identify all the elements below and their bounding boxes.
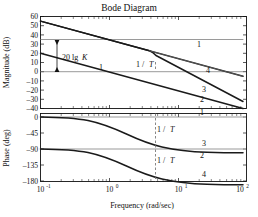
phase-plot-frame [41, 114, 247, 182]
twenty-lg-k-arrow [55, 40, 60, 72]
x-tick-exp-2: 0 [116, 183, 119, 189]
magnitude-label-1-right: 1 [197, 40, 201, 49]
x-tick-label-1e0: 10 0 [106, 183, 119, 194]
x-tick-exp-3: 1 [185, 183, 188, 189]
phase-label-3: 3 [202, 139, 206, 148]
chart-title: Bode Diagram [101, 3, 157, 13]
magnitude-label-2: 2 [200, 95, 204, 104]
magnitude-label-1-left: 1 [99, 63, 103, 72]
phase-tick-label-0: 0 [34, 113, 38, 122]
annotation-20lgk-symbol: K [81, 53, 88, 62]
phase-curve-4 [41, 149, 244, 185]
bode-diagram-figure: Bode Diagram [0, 0, 258, 217]
mag-tick-label-40: 40 [30, 31, 38, 40]
phase-curve-3 [41, 117, 244, 153]
mag-tick-label-60: 60 [30, 12, 38, 21]
phase-annotation-1overT-lower-prefix: 1 / [157, 156, 166, 165]
mag-tick-label-neg10: –10 [26, 77, 39, 86]
phase-tick-label-neg90: –90 [26, 145, 39, 154]
x-tick-base-3: 10 [175, 185, 183, 194]
phase-label-2: 2 [200, 151, 204, 160]
magnitude-label-3: 3 [202, 85, 206, 94]
x-tick-exp-1: -1 [46, 183, 51, 189]
phase-annotation-1overT-lower-symbol: T [170, 156, 175, 165]
mag-tick-label-10: 10 [30, 58, 38, 67]
phase-tick-label-neg45: –45 [26, 129, 39, 138]
x-tick-base-4: 10 [236, 185, 244, 194]
phase-annotation-1overT-upper-prefix: 1 / [157, 125, 166, 134]
x-tick-label-1e-1: 10 -1 [37, 183, 51, 194]
phase-tick-label-neg135: –135 [22, 161, 38, 170]
mag-tick-label-neg20: –20 [26, 86, 39, 95]
annotation-20lgk-text: 20 lg [62, 53, 78, 62]
bode-chart-svg: Bode Diagram [0, 0, 258, 217]
mag-tick-label-neg30: –30 [26, 95, 39, 104]
mag-tick-label-0: 0 [34, 67, 38, 76]
mag-tick-label-20: 20 [30, 49, 38, 58]
phase-annotation-1overT-upper-symbol: T [170, 125, 175, 134]
magnitude-annotation-1overT-symbol: T [149, 60, 154, 69]
x-tick-label-1e1: 10 1 [175, 183, 188, 194]
magnitude-label-4: 4 [206, 66, 210, 75]
magnitude-axis-label: Magnitude (dB) [2, 37, 11, 89]
magnitude-asymptote-continuation [150, 51, 244, 77]
phase-label-1: 1 [200, 108, 204, 117]
x-tick-base-1: 10 [37, 185, 45, 194]
magnitude-annotation-1overT-prefix: 1 / [136, 60, 145, 69]
x-tick-label-1e2: 10 2 [236, 183, 249, 194]
frequency-axis-label: Frequency (rad/sec) [110, 201, 174, 210]
phase-x-ticks [61, 114, 241, 182]
x-tick-exp-4: 2 [246, 183, 249, 189]
phase-axis-label: Phase (deg) [2, 129, 11, 167]
x-tick-base-2: 10 [106, 185, 114, 194]
mag-tick-label-30: 30 [30, 40, 38, 49]
mag-tick-label-50: 50 [30, 21, 38, 30]
phase-label-4: 4 [202, 170, 206, 179]
